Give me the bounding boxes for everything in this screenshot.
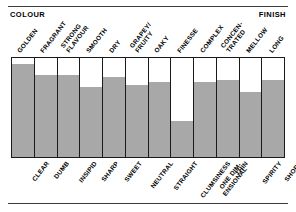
bar-fill <box>262 80 284 157</box>
bar-fill <box>240 92 262 157</box>
bar-fill <box>12 64 34 157</box>
bar-fill <box>171 121 193 157</box>
bar-column <box>103 58 126 157</box>
bar-column <box>12 58 35 157</box>
bottom-axis-label: NEUTRAL <box>149 160 174 189</box>
bar-column <box>194 58 217 157</box>
bar-fill <box>58 75 80 157</box>
bar-fill <box>126 85 148 157</box>
top-axis-label: LONG <box>268 35 285 54</box>
bottom-axis-label: SPIRITY <box>261 160 283 185</box>
top-axis-label: DRY <box>108 40 122 55</box>
bottom-divider-rule <box>8 203 288 204</box>
top-axis-label: SMOOTH <box>85 27 108 54</box>
bar-fill <box>35 75 57 157</box>
bottom-axis-label: SWEET <box>123 160 143 183</box>
bar-column <box>240 58 263 157</box>
header-label-colour: COLOUR <box>10 10 45 19</box>
bar-column <box>126 58 149 157</box>
bar-column <box>171 58 194 157</box>
bottom-axis-label: CLEAR <box>32 160 52 182</box>
bar-column <box>262 58 284 157</box>
top-divider-rule <box>8 6 288 7</box>
top-axis-label: FINESSE <box>177 28 200 55</box>
bar-column <box>217 58 240 157</box>
bottom-axis-label: SHARP <box>100 160 120 183</box>
bar-chart-plot-area <box>11 57 285 158</box>
bottom-axis-label: DUMB <box>53 160 71 180</box>
top-axis-label: OAKY <box>154 35 171 54</box>
bottom-axis-label: INSIPID <box>78 160 98 184</box>
header-label-finish: FINISH <box>259 10 286 19</box>
top-axis-label: COMPLEX <box>199 24 225 54</box>
bar-fill <box>217 80 239 157</box>
top-axis-label: GOLDEN <box>17 28 40 55</box>
bar-fill <box>80 87 102 157</box>
tasting-scale-chart: COLOUR FINISH GOLDENFRAGRANTSTRONGFLAVOU… <box>0 0 296 212</box>
bar-fill <box>103 77 125 157</box>
bar-column <box>58 58 81 157</box>
bottom-axis-label: STRAIGHT <box>173 160 200 191</box>
top-axis-label: MELLOW <box>245 27 269 55</box>
bar-column <box>35 58 58 157</box>
bar-column <box>149 58 172 157</box>
bar-fill <box>149 82 171 157</box>
bar-fill <box>194 82 216 157</box>
bottom-axis-label: SHORT <box>283 160 296 183</box>
bar-column <box>80 58 103 157</box>
